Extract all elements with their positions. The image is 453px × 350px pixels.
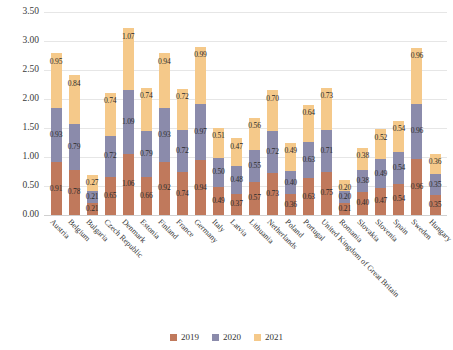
bar-segment-2019[interactable]: 0.66: [141, 177, 152, 215]
bar-segment-2020[interactable]: 0.54: [393, 152, 404, 183]
bar-group[interactable]: 0.360.400.49: [282, 12, 300, 215]
bar-group[interactable]: 0.400.380.38: [354, 12, 372, 215]
bar-segment-2019[interactable]: 0.74: [177, 172, 188, 215]
bar-segment-2021[interactable]: 0.74: [141, 88, 152, 131]
bar-group[interactable]: 0.660.790.74: [137, 12, 155, 215]
bar-segment-2021[interactable]: 0.94: [159, 53, 170, 108]
bar-segment-2021[interactable]: 0.56: [249, 118, 260, 150]
legend-item-2020[interactable]: 2020: [212, 333, 241, 342]
bar-segment-2021[interactable]: 0.96: [411, 48, 422, 104]
bar-group[interactable]: 0.740.720.72: [173, 12, 191, 215]
stacked-bar[interactable]: 0.940.970.99: [195, 47, 206, 215]
bar-group[interactable]: 0.780.790.84: [65, 12, 83, 215]
bar-segment-2019[interactable]: 0.96: [411, 159, 422, 215]
bar-segment-2021[interactable]: 0.36: [430, 154, 441, 175]
bar-group[interactable]: 1.061.091.07: [119, 12, 137, 215]
bar-segment-2019[interactable]: 0.21: [339, 203, 350, 215]
stacked-bar[interactable]: 0.960.960.96: [411, 48, 422, 215]
bar-segment-2021[interactable]: 0.51: [213, 128, 224, 158]
bar-group[interactable]: 0.210.200.20: [336, 12, 354, 215]
bar-segment-2020[interactable]: 0.40: [285, 171, 296, 194]
bar-group[interactable]: 0.630.630.64: [300, 12, 318, 215]
bar-group[interactable]: 0.470.490.52: [372, 12, 390, 215]
bar-segment-2021[interactable]: 0.20: [339, 180, 350, 192]
bar-segment-2019[interactable]: 0.92: [159, 162, 170, 215]
bar-segment-2020[interactable]: 0.96: [411, 104, 422, 160]
bar-group[interactable]: 0.210.210.27: [83, 12, 101, 215]
bar-group[interactable]: 0.490.500.51: [209, 12, 227, 215]
bar-segment-2019[interactable]: 0.40: [357, 192, 368, 215]
bar-segment-2020[interactable]: 0.20: [339, 191, 350, 203]
bar-segment-2020[interactable]: 0.35: [430, 174, 441, 194]
bar-segment-2019[interactable]: 0.73: [267, 173, 278, 215]
bar-segment-2021[interactable]: 0.72: [177, 89, 188, 131]
bar-segment-2020[interactable]: 0.21: [87, 191, 98, 203]
bar-segment-2021[interactable]: 0.52: [375, 129, 386, 159]
bar-group[interactable]: 0.750.710.73: [318, 12, 336, 215]
bar-segment-2019[interactable]: 0.65: [105, 177, 116, 215]
bar-segment-2019[interactable]: 0.37: [231, 194, 242, 215]
bar-segment-2019[interactable]: 0.54: [393, 184, 404, 215]
bar-segment-2019[interactable]: 0.36: [285, 194, 296, 215]
bar-segment-2020[interactable]: 0.38: [357, 170, 368, 192]
bar-group[interactable]: 0.910.930.95: [47, 12, 65, 215]
bar-segment-2021[interactable]: 0.54: [393, 121, 404, 152]
stacked-bar[interactable]: 0.920.930.94: [159, 53, 170, 215]
bar-segment-2020[interactable]: 0.79: [69, 124, 80, 170]
stacked-bar[interactable]: 0.210.200.20: [339, 180, 350, 215]
bar-segment-2020[interactable]: 0.79: [141, 131, 152, 177]
bar-segment-2020[interactable]: 0.97: [195, 104, 206, 160]
stacked-bar[interactable]: 0.350.350.36: [430, 154, 441, 215]
bar-segment-2021[interactable]: 0.49: [285, 143, 296, 171]
stacked-bar[interactable]: 0.730.720.70: [267, 90, 278, 215]
bar-group[interactable]: 0.730.720.70: [264, 12, 282, 215]
legend-item-2021[interactable]: 2021: [254, 333, 283, 342]
stacked-bar[interactable]: 0.630.630.64: [303, 105, 314, 215]
bar-segment-2021[interactable]: 0.73: [321, 88, 332, 130]
legend-item-2019[interactable]: 2019: [170, 333, 199, 342]
bar-segment-2020[interactable]: 0.71: [321, 130, 332, 171]
bar-group[interactable]: 0.350.350.36: [426, 12, 444, 215]
bar-group[interactable]: 0.940.970.99: [191, 12, 209, 215]
bar-group[interactable]: 0.650.720.74: [101, 12, 119, 215]
bar-group[interactable]: 0.370.480.47: [227, 12, 245, 215]
stacked-bar[interactable]: 0.650.720.74: [105, 93, 116, 215]
bar-segment-2020[interactable]: 0.49: [375, 159, 386, 187]
bar-segment-2019[interactable]: 0.21: [87, 203, 98, 215]
bar-segment-2019[interactable]: 0.78: [69, 170, 80, 215]
stacked-bar[interactable]: 0.910.930.95: [51, 53, 62, 215]
bar-group[interactable]: 0.540.540.54: [390, 12, 408, 215]
bar-segment-2021[interactable]: 1.07: [123, 28, 134, 90]
bar-segment-2019[interactable]: 0.57: [249, 182, 260, 215]
bar-segment-2019[interactable]: 0.47: [375, 188, 386, 215]
bar-segment-2021[interactable]: 0.70: [267, 90, 278, 131]
stacked-bar[interactable]: 0.210.210.27: [87, 175, 98, 215]
bar-segment-2020[interactable]: 0.72: [105, 136, 116, 178]
stacked-bar[interactable]: 0.570.550.56: [249, 118, 260, 215]
bar-group[interactable]: 0.570.550.56: [246, 12, 264, 215]
stacked-bar[interactable]: 0.370.480.47: [231, 138, 242, 215]
stacked-bar[interactable]: 1.061.091.07: [123, 28, 134, 215]
bar-segment-2021[interactable]: 0.27: [87, 175, 98, 191]
bar-segment-2019[interactable]: 0.49: [213, 187, 224, 215]
bar-group[interactable]: 0.920.930.94: [155, 12, 173, 215]
stacked-bar[interactable]: 0.740.720.72: [177, 89, 188, 215]
bar-segment-2020[interactable]: 0.72: [177, 130, 188, 172]
stacked-bar[interactable]: 0.490.500.51: [213, 128, 224, 215]
bar-segment-2021[interactable]: 0.64: [303, 105, 314, 142]
bar-segment-2020[interactable]: 0.63: [303, 142, 314, 179]
stacked-bar[interactable]: 0.780.790.84: [69, 75, 80, 215]
bar-segment-2020[interactable]: 0.93: [51, 108, 62, 162]
bar-segment-2021[interactable]: 0.38: [357, 148, 368, 170]
bar-segment-2020[interactable]: 0.48: [231, 166, 242, 194]
bar-segment-2021[interactable]: 0.84: [69, 75, 80, 124]
bar-segment-2020[interactable]: 0.93: [159, 108, 170, 162]
bar-segment-2021[interactable]: 0.74: [105, 93, 116, 136]
bar-segment-2020[interactable]: 1.09: [123, 90, 134, 153]
bar-segment-2021[interactable]: 0.47: [231, 138, 242, 165]
bar-segment-2021[interactable]: 0.99: [195, 47, 206, 104]
stacked-bar[interactable]: 0.540.540.54: [393, 121, 404, 215]
stacked-bar[interactable]: 0.400.380.38: [357, 148, 368, 215]
stacked-bar[interactable]: 0.360.400.49: [285, 143, 296, 215]
bar-segment-2019[interactable]: 0.35: [430, 195, 441, 215]
